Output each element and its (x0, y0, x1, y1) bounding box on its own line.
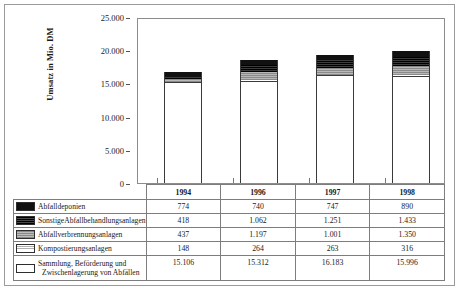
data-legend-table: 1994 1996 1997 1998 Abfalldeponien 774 7… (13, 184, 445, 281)
value-cell: 747 (295, 200, 370, 214)
bar-segment-sammlung (165, 83, 201, 183)
value-cell: 1.251 (295, 214, 370, 228)
x-minor-tick (385, 178, 386, 183)
value-cell: 316 (370, 242, 445, 256)
value-cell: 1.433 (370, 214, 445, 228)
header-blank-cell (14, 185, 147, 200)
y-axis-title: Umsatz in Mio. DM (45, 9, 59, 119)
value-cell: 15.996 (370, 256, 445, 281)
x-minor-tick (233, 178, 234, 183)
legend-label-line2: Zwischenlagerung von Abfällen (38, 268, 139, 277)
bar-segment-sonstige-abfallbehandlungsanlagen (241, 65, 277, 72)
y-tick-mark (126, 51, 130, 52)
bar-1994 (164, 72, 202, 183)
value-cell: 1.001 (295, 228, 370, 242)
bar-segment-sammlung (241, 82, 277, 183)
value-cell: 1.350 (370, 228, 445, 242)
bar-segment-abfallverbrennungsanlagen (317, 68, 353, 75)
legend-swatch-abfallverbrennungsanlagen-icon (16, 230, 35, 239)
bar-segment-sammlung (393, 77, 429, 183)
y-tick-mark (126, 118, 130, 119)
y-tick-label: 25.000 (101, 14, 124, 23)
y-tick-label: 15.000 (101, 80, 124, 89)
y-tick-mark (126, 84, 130, 85)
bar-segment-divider (241, 81, 277, 82)
legend-label-multiline: Sammlung, Beförderung und Zwischenlageru… (38, 259, 139, 277)
bar-segment-divider (165, 82, 201, 83)
bar-segment-abfallverbrennungsanlagen (241, 72, 277, 80)
column-header-1996: 1996 (221, 185, 296, 200)
bar-segment-divider (393, 76, 429, 77)
bar-segment-sonstige-abfallbehandlungsanlagen (393, 57, 429, 66)
value-cell: 1.197 (221, 228, 296, 242)
column-header-1997: 1997 (295, 185, 370, 200)
value-cell: 16.183 (295, 256, 370, 281)
legend-cell-sonstige-abfallbehandlungsanlagen: SonstigeAbfallbehandlungsanlagen (14, 214, 147, 228)
value-cell: 15.312 (221, 256, 296, 281)
bar-segment-divider (317, 75, 353, 76)
table-row: Sammlung, Beförderung und Zwischenlageru… (14, 256, 445, 281)
y-axis-tick-labels: 25.000 20.000 15.000 10.000 5.000 0 (75, 18, 130, 184)
table-row: Kompostierungsanlagen 148 264 263 316 (14, 242, 445, 256)
bar-1996 (240, 60, 278, 183)
legend-cell-abfalldeponien: Abfalldeponien (14, 200, 147, 214)
value-cell: 1.062 (221, 214, 296, 228)
table-row: Abfalldeponien 774 740 747 890 (14, 200, 445, 214)
legend-swatch-sammlung-icon (16, 264, 35, 273)
bar-segment-abfalldeponien (165, 72, 201, 77)
legend-cell-abfallverbrennungsanlagen: Abfallverbrennungsanlagen (14, 228, 147, 242)
table-row: SonstigeAbfallbehandlungsanlagen 418 1.0… (14, 214, 445, 228)
legend-label: Abfallverbrennungsanlagen (38, 230, 122, 239)
y-tick-label: 10.000 (101, 113, 124, 122)
legend-label: SonstigeAbfallbehandlungsanlagen (38, 216, 146, 225)
x-minor-tick (309, 178, 310, 183)
legend-swatch-abfalldeponien-icon (16, 202, 35, 211)
value-cell: 264 (221, 242, 296, 256)
legend-cell-sammlung: Sammlung, Beförderung und Zwischenlageru… (14, 256, 147, 281)
bar-segment-sonstige-abfallbehandlungsanlagen (317, 60, 353, 68)
legend-cell-kompostierungsanlagen: Kompostierungsanlagen (14, 242, 147, 256)
x-minor-tick (157, 178, 158, 183)
bar-1998 (392, 51, 430, 183)
legend-label: Kompostierungsanlagen (38, 244, 112, 253)
figure-frame: Umsatz in Mio. DM 25.000 20.000 15.000 1… (4, 4, 455, 286)
value-cell: 740 (221, 200, 296, 214)
table-header-row: 1994 1996 1997 1998 (14, 185, 445, 200)
plot-area (137, 18, 445, 184)
y-tick-mark (126, 18, 130, 19)
table-row: Abfallverbrennungsanlagen 437 1.197 1.00… (14, 228, 445, 242)
value-cell: 148 (146, 242, 221, 256)
value-cell: 774 (146, 200, 221, 214)
legend-swatch-kompostierungsanlagen-icon (16, 244, 35, 253)
legend-label: Abfalldeponien (38, 202, 85, 211)
y-tick-label: 5.000 (105, 146, 124, 155)
column-header-1994: 1994 (146, 185, 221, 200)
y-tick-label: 20.000 (101, 47, 124, 56)
value-cell: 890 (370, 200, 445, 214)
value-cell: 418 (146, 214, 221, 228)
value-cell: 263 (295, 242, 370, 256)
bar-segment-abfalldeponien (241, 60, 277, 65)
bar-segment-abfalldeponien (317, 55, 353, 60)
value-cell: 15.106 (146, 256, 221, 281)
bar-1997 (316, 55, 354, 183)
column-header-1998: 1998 (370, 185, 445, 200)
bar-segment-abfalldeponien (393, 51, 429, 57)
legend-swatch-sonstige-abfallbehandlungsanlagen-icon (16, 216, 35, 225)
y-tick-mark (126, 151, 130, 152)
bar-segment-abfallverbrennungsanlagen (393, 66, 429, 75)
bar-segment-sammlung (317, 76, 353, 183)
legend-label-line1: Sammlung, Beförderung und (38, 259, 126, 268)
value-cell: 437 (146, 228, 221, 242)
bar-segment-sonstige-abfallbehandlungsanlagen (165, 77, 201, 80)
